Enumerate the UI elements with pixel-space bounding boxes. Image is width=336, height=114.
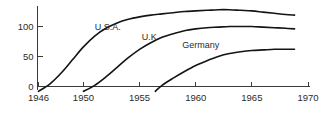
series-line-germany	[155, 49, 294, 91]
y-tick-label-100: 100	[18, 21, 34, 32]
chart-svg: 050100 194619501955196019651970 U.S.A.U.…	[0, 0, 336, 114]
series-labels: U.S.A.U.K.Germany	[95, 22, 220, 51]
x-tick-label-1970: 1970	[297, 92, 318, 103]
series-label-germany: Germany	[182, 40, 220, 50]
x-tick-label-1960: 1960	[185, 92, 206, 103]
series-lines	[39, 10, 295, 92]
series-label-usa: U.S.A.	[95, 22, 121, 32]
y-tick-label-50: 50	[23, 51, 34, 62]
x-tick-label-1955: 1955	[129, 92, 150, 103]
series-label-uk: U.K.	[142, 32, 160, 42]
x-tick-label-1946: 1946	[28, 92, 49, 103]
x-tick-label-1950: 1950	[73, 92, 94, 103]
x-tick-label-1965: 1965	[241, 92, 262, 103]
line-chart: 050100 194619501955196019651970 U.S.A.U.…	[0, 0, 336, 114]
y-tick-label-0: 0	[28, 81, 33, 92]
x-axis-ticks: 194619501955196019651970	[28, 82, 319, 103]
series-line-uk	[83, 26, 294, 91]
y-axis-ticks: 050100	[18, 21, 43, 92]
